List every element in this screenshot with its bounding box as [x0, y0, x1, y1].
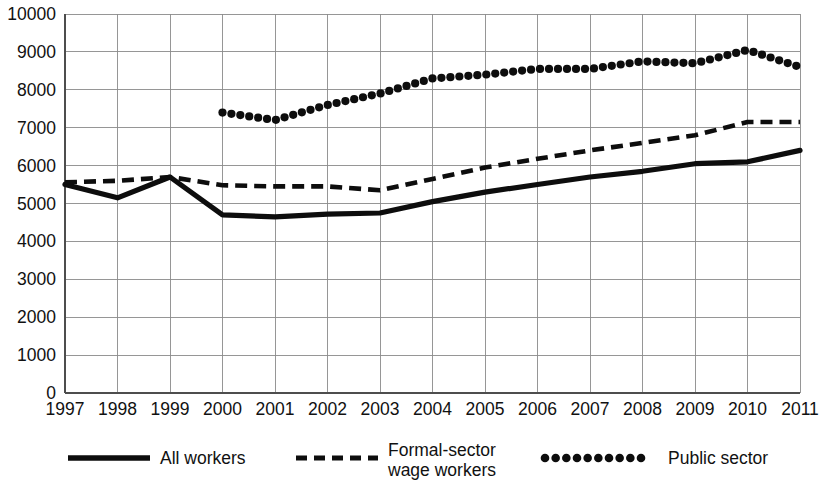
legend-item: Formal-sectorwage workers — [296, 440, 496, 480]
data-point-marker — [332, 99, 340, 107]
x-axis-tick-label: 2007 — [571, 399, 610, 419]
x-axis-tick-label: 2008 — [623, 399, 662, 419]
legend-swatch-dotted — [551, 454, 560, 463]
data-point-marker — [280, 113, 288, 121]
legend-swatch-dotted — [626, 454, 635, 463]
data-point-marker — [324, 101, 332, 109]
data-point-marker — [315, 103, 323, 111]
data-point-marker — [263, 115, 271, 123]
chart-svg: 0100020003000400050006000700080009000100… — [0, 0, 823, 484]
data-point-marker — [625, 59, 633, 67]
legend-label-line2: wage workers — [387, 460, 496, 480]
data-point-marker — [536, 65, 544, 73]
data-point-marker — [617, 60, 625, 68]
data-point-marker — [643, 57, 651, 65]
legend-swatch-dotted — [573, 454, 582, 463]
legend-label: All workers — [160, 448, 246, 468]
data-point-marker — [254, 114, 262, 122]
x-axis-tick-label: 2011 — [781, 399, 819, 419]
legend-label: Public sector — [668, 448, 768, 468]
data-point-marker — [218, 108, 226, 116]
data-point-marker — [236, 111, 244, 119]
data-point-marker — [688, 59, 696, 67]
chart-legend: All workersFormal-sectorwage workersPubl… — [68, 440, 768, 480]
data-point-marker — [679, 59, 687, 67]
data-point-marker — [715, 53, 723, 61]
legend-label-line1: Formal-sector — [388, 440, 496, 460]
data-point-marker — [385, 87, 393, 95]
data-point-marker — [775, 56, 783, 64]
data-point-marker — [590, 64, 598, 72]
data-point-marker — [518, 67, 526, 75]
data-point-marker — [402, 82, 410, 90]
y-axis-tick-label: 2000 — [17, 307, 56, 327]
data-point-marker — [272, 116, 280, 124]
data-point-marker — [608, 62, 616, 70]
data-point-marker — [723, 51, 731, 59]
data-point-marker — [359, 93, 367, 101]
data-point-marker — [411, 79, 419, 87]
data-point-marker — [706, 55, 714, 63]
x-axis-tick-label: 1999 — [151, 399, 190, 419]
x-axis-tick-label: 2003 — [361, 399, 400, 419]
data-point-marker — [732, 49, 740, 57]
legend-swatch-dotted — [541, 454, 550, 463]
data-point-marker — [473, 71, 481, 79]
x-axis-tick-label: 2005 — [466, 399, 505, 419]
y-axis-tick-label: 9000 — [17, 42, 56, 62]
legend-swatch-dotted — [637, 454, 646, 463]
data-point-marker — [298, 108, 306, 116]
y-axis-tick-label: 5000 — [17, 194, 56, 214]
y-axis-tick-label: 7000 — [17, 118, 56, 138]
x-axis-tick-label: 2004 — [413, 399, 452, 419]
data-point-marker — [420, 77, 428, 85]
legend-swatch-dotted — [583, 454, 592, 463]
y-axis-tick-label: 1000 — [17, 345, 56, 365]
x-axis-tick-label: 2009 — [676, 399, 715, 419]
data-point-marker — [749, 48, 757, 56]
x-axis-tick-label: 2001 — [256, 399, 295, 419]
data-point-marker — [464, 72, 472, 80]
data-point-marker — [792, 62, 800, 70]
data-point-marker — [758, 51, 766, 59]
data-point-marker — [563, 65, 571, 73]
data-point-marker — [784, 59, 792, 67]
data-point-marker — [428, 74, 436, 82]
data-point-marker — [581, 65, 589, 73]
x-axis-tick-label: 2006 — [518, 399, 557, 419]
x-axis-tick-labels: 1997199819992000200120022003200420052006… — [46, 399, 819, 419]
y-axis-tick-label: 10000 — [7, 4, 56, 24]
data-point-marker — [227, 110, 235, 118]
data-point-marker — [350, 95, 358, 103]
data-point-marker — [341, 97, 349, 105]
legend-item: Public sector — [541, 448, 769, 468]
data-point-marker — [446, 73, 454, 81]
data-point-marker — [670, 58, 678, 66]
data-point-marker — [500, 68, 508, 76]
legend-swatch-dotted — [615, 454, 624, 463]
y-axis-tick-label: 3000 — [17, 269, 56, 289]
data-point-marker — [741, 47, 749, 55]
data-point-marker — [661, 58, 669, 66]
y-axis-tick-labels: 0100020003000400050006000700080009000100… — [7, 4, 56, 403]
x-axis-tick-label: 1998 — [98, 399, 137, 419]
data-point-marker — [437, 74, 445, 82]
x-axis-tick-label: 2000 — [203, 399, 242, 419]
x-axis-tick-label: 2002 — [308, 399, 347, 419]
data-point-marker — [491, 69, 499, 77]
data-point-marker — [376, 89, 384, 97]
data-point-marker — [509, 67, 517, 75]
legend-item: All workers — [68, 448, 246, 468]
data-point-marker — [482, 70, 490, 78]
data-point-marker — [634, 58, 642, 66]
x-axis-tick-label: 1997 — [46, 399, 85, 419]
legend-swatch-dotted — [562, 454, 571, 463]
data-point-marker — [245, 112, 253, 120]
data-point-marker — [766, 53, 774, 61]
legend-swatch-dotted — [594, 454, 603, 463]
y-axis-tick-label: 8000 — [17, 80, 56, 100]
data-point-marker — [368, 91, 376, 99]
data-point-marker — [455, 72, 463, 80]
data-point-marker — [545, 65, 553, 73]
x-axis-tick-label: 2010 — [728, 399, 767, 419]
